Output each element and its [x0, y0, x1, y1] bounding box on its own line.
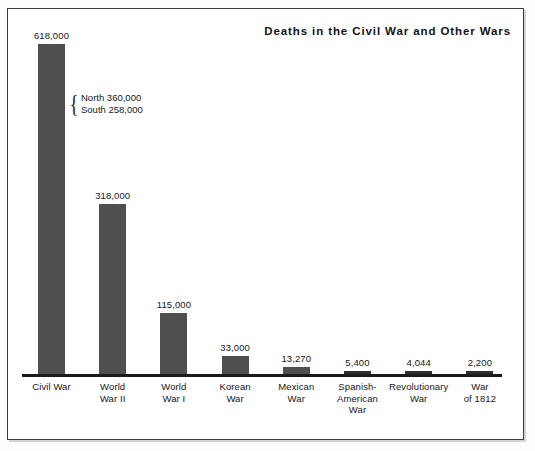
- bar-korean-war: [222, 356, 249, 374]
- annotation-text: North 360,000 South 258,000: [81, 92, 143, 115]
- civil-war-breakdown-annotation: { North 360,000 South 258,000: [68, 92, 143, 115]
- chart-figure: Deaths in the Civil War and Other Wars 6…: [0, 0, 535, 451]
- value-label-world-war-i: 115,000: [134, 299, 214, 310]
- bar-world-war-ii: [99, 204, 126, 374]
- bar-revolutionary-war: [405, 371, 432, 374]
- value-label-korean-war: 33,000: [195, 342, 275, 353]
- bar-spanish-american-war: [344, 371, 371, 374]
- chart-plot-area: Deaths in the Civil War and Other Wars 6…: [0, 0, 535, 451]
- bar-world-war-i: [160, 313, 187, 374]
- bar-mexican-war: [283, 367, 310, 374]
- value-label-war-of-1812: 2,200: [440, 357, 520, 368]
- annotation-line-north: North 360,000: [81, 92, 143, 104]
- value-label-civil-war: 618,000: [12, 30, 92, 41]
- annotation-line-south: South 258,000: [81, 104, 143, 116]
- value-label-world-war-ii: 318,000: [73, 190, 153, 201]
- bar-civil-war: [38, 44, 65, 374]
- x-axis-baseline: [22, 374, 502, 377]
- chart-title: Deaths in the Civil War and Other Wars: [264, 25, 511, 37]
- x-tick-label-war-of-1812: Warof 1812: [435, 381, 525, 404]
- bar-war-of-1812: [466, 371, 493, 374]
